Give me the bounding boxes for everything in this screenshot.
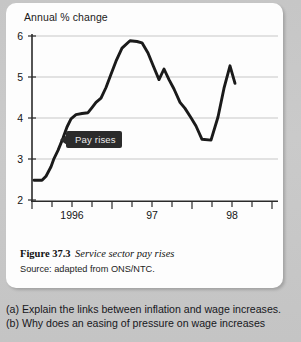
questions-block: (a) Explain the links between inflation … <box>6 303 298 331</box>
question-b: (b) Why does an easing of pressure on wa… <box>6 317 298 331</box>
x-tick-marks <box>32 201 272 209</box>
question-a: (a) Explain the links between inflation … <box>6 303 298 317</box>
x-tick-label: 97 <box>146 209 158 221</box>
x-tick-label: 98 <box>226 209 238 221</box>
figure-number: Figure 37.3 <box>20 248 71 259</box>
figure-caption: Figure 37.3 Service sector pay rises Sou… <box>20 243 270 275</box>
line-chart-svg: 6 5 4 3 2 1996 97 <box>6 3 283 233</box>
figure-panel: Annual % change 6 5 <box>6 3 283 288</box>
y-tick-label: 3 <box>17 153 23 165</box>
y-tick-label: 5 <box>17 71 23 83</box>
y-tick-label: 6 <box>17 30 23 42</box>
chart-area: Annual % change 6 5 <box>6 3 283 233</box>
y-tick-label: 2 <box>17 194 23 206</box>
figure-source: Source: adapted from ONS/NTC. <box>20 264 270 275</box>
y-tick-label: 4 <box>17 112 23 124</box>
figure-title: Service sector pay rises <box>75 248 174 259</box>
x-tick-label: 1996 <box>60 209 84 221</box>
pay-rises-callout: Pay rises <box>66 131 122 148</box>
